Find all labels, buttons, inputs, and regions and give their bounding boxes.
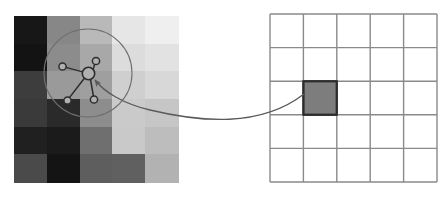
figure-root: Pixel neighbourhood graph mapped to latt…: [0, 0, 448, 197]
connector-panel: [0, 0, 448, 197]
correspondence-connector: [95, 80, 304, 119]
